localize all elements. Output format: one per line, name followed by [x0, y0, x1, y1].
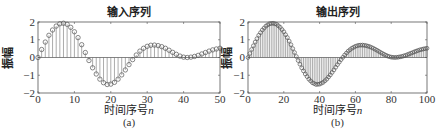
x-tick-label: 50 — [215, 93, 227, 105]
subfigure-caption: (a) — [123, 116, 136, 129]
y-tick-label: 1 — [30, 33, 36, 45]
figure: 01020304050−2−1012输入序列时间序号n振幅(a)02040608… — [0, 0, 447, 134]
y-tick-label: −1 — [23, 69, 35, 81]
x-tick-label: 100 — [419, 93, 436, 105]
chart-title: 输入序列 — [107, 5, 151, 19]
y-axis-label: 振幅 — [220, 47, 234, 69]
y-tick-label: −2 — [23, 87, 35, 99]
y-tick-label: −2 — [233, 87, 245, 99]
x-tick-label: 10 — [69, 93, 81, 105]
x-tick-label: 0 — [245, 93, 251, 105]
subfigure-caption: (b) — [331, 116, 344, 129]
x-tick-label: 20 — [278, 93, 290, 105]
x-tick-label: 0 — [35, 93, 41, 105]
stems — [246, 21, 429, 86]
x-tick-label: 40 — [178, 93, 190, 105]
chart-a: 01020304050−2−1012输入序列时间序号n振幅(a) — [1, 5, 226, 129]
x-axis-label-var: n — [357, 104, 363, 116]
x-axis-label-var: n — [148, 104, 154, 116]
y-tick-label: 2 — [30, 16, 36, 28]
y-tick-label: 0 — [240, 51, 246, 63]
y-axis-label: 振幅 — [1, 47, 15, 69]
chart-title: 输出序列 — [316, 5, 360, 19]
x-axis-label: 时间序号n — [104, 103, 154, 117]
stems — [36, 21, 222, 87]
y-tick-label: 2 — [240, 16, 246, 28]
x-tick-label: 80 — [386, 93, 398, 105]
y-tick-label: 0 — [30, 51, 36, 63]
y-tick-label: 1 — [240, 33, 246, 45]
x-axis-label: 时间序号n — [313, 103, 363, 117]
chart-b: 020406080100−2−1012输出序列时间序号n振幅(b) — [220, 5, 436, 129]
y-tick-label: −1 — [233, 69, 245, 81]
